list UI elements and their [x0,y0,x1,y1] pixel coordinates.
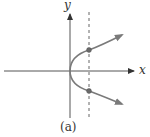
parabola-upper-branch [70,35,122,71]
upper-intersection-point [87,48,92,53]
x-axis-label: x [139,64,146,76]
parabola-lower-branch [70,71,122,104]
graph-figure [0,0,150,137]
y-axis-label: y [64,0,71,11]
figure-caption: (a) [60,121,77,133]
lower-intersection-point [87,89,92,94]
